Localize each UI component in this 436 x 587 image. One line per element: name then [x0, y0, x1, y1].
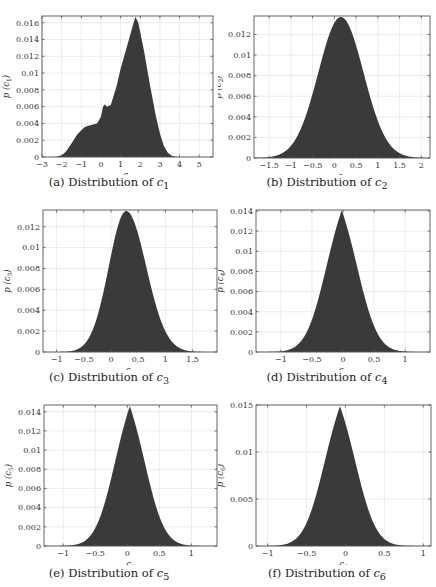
x-tick-label: 0.5: [350, 161, 363, 170]
y-tick-label: 0.014: [18, 408, 41, 417]
y-tick-label: 0.006: [228, 92, 251, 101]
x-tick-label: 1: [375, 161, 380, 170]
subplot-b: −1.5−1−0.500.511.5200.0020.0040.0060.008…: [218, 0, 436, 195]
x-tick-label: −1: [285, 161, 297, 170]
subplot-c: −1−0.500.511.500.0020.0040.0060.0080.010…: [0, 195, 218, 390]
chart-a: −3−2−101234500.0020.0040.0060.0080.010.0…: [0, 0, 218, 175]
y-tick-label: 0.004: [228, 113, 251, 122]
x-tick-label: 0: [98, 160, 103, 169]
x-tick-label: 1: [421, 549, 426, 558]
x-tick-label: −0.5: [86, 549, 105, 558]
y-axis-label: p (c4): [218, 269, 226, 292]
x-tick-label: 0.5: [368, 355, 381, 364]
x-tick-label: −0.5: [297, 549, 316, 558]
y-tick-label: 0.012: [17, 223, 40, 232]
x-tick-label: 3: [157, 160, 162, 169]
y-axis-label: p (c2): [218, 75, 224, 98]
y-tick-label: 0.004: [18, 503, 41, 512]
y-tick-label: 0.01: [235, 247, 253, 256]
y-tick-label: 0: [246, 154, 251, 163]
chart-b: −1.5−1−0.500.511.5200.0020.0040.0060.008…: [218, 0, 436, 175]
x-tick-label: 1: [163, 355, 168, 364]
x-tick-label: 1: [189, 549, 194, 558]
y-tick-label: 0: [248, 542, 253, 551]
y-tick-label: 0.002: [228, 133, 251, 142]
y-tick-label: 0.016: [16, 19, 39, 28]
x-tick-label: 4: [177, 160, 182, 169]
y-tick-label: 0.006: [18, 484, 41, 493]
x-tick-label: −0.5: [302, 355, 321, 364]
y-tick-label: 0.012: [18, 427, 41, 436]
y-tick-label: 0.006: [16, 102, 39, 111]
x-tick-label: −1.5: [259, 161, 278, 170]
caption-b: (b) Distribution of c2: [218, 175, 436, 191]
y-tick-label: 0.008: [228, 71, 251, 80]
caption-f: (f) Distribution of c6: [218, 566, 436, 582]
x-tick-label: −2: [56, 160, 68, 169]
x-tick-label: 0.5: [132, 355, 145, 364]
x-tick-label: 0: [340, 355, 345, 364]
x-tick-label: 1.5: [186, 355, 199, 364]
y-tick-label: 0: [34, 153, 39, 162]
y-axis-label: p (c3): [2, 269, 13, 292]
x-tick-label: 2: [138, 160, 143, 169]
y-tick-label: 0.014: [16, 35, 39, 44]
x-tick-label: −1: [51, 355, 63, 364]
caption-d: (d) Distribution of c4: [218, 370, 436, 386]
x-tick-label: −0.5: [303, 161, 322, 170]
x-tick-label: 1.5: [393, 161, 406, 170]
x-tick-label: −1: [262, 549, 274, 558]
y-tick-label: 0.01: [22, 243, 40, 252]
y-tick-label: 0.01: [21, 69, 39, 78]
y-tick-label: 0.015: [230, 401, 253, 410]
x-tick-label: 5: [197, 160, 202, 169]
x-tick-label: 0: [125, 549, 130, 558]
y-tick-label: 0.002: [230, 328, 253, 337]
y-tick-label: 0.004: [16, 119, 39, 128]
x-tick-label: −0.5: [74, 355, 93, 364]
x-tick-label: 1: [118, 160, 123, 169]
y-tick-label: 0: [35, 348, 40, 357]
x-axis-label: c5: [126, 559, 135, 565]
x-tick-label: 1: [403, 355, 408, 364]
distribution-area: [256, 406, 431, 546]
y-tick-label: 0.012: [16, 52, 39, 61]
x-tick-label: −1: [57, 549, 69, 558]
y-tick-label: 0: [248, 348, 253, 357]
subplot-a: −3−2−101234500.0020.0040.0060.0080.010.0…: [0, 0, 218, 195]
y-tick-label: 0.005: [230, 495, 253, 504]
y-axis-label: p (c5): [3, 464, 14, 487]
x-tick-label: 0: [343, 549, 348, 558]
y-tick-label: 0.01: [235, 448, 253, 457]
y-tick-label: 0.006: [230, 287, 253, 296]
y-axis-label: p (c1): [1, 75, 12, 98]
y-tick-label: 0.008: [230, 267, 253, 276]
y-tick-label: 0.014: [230, 207, 253, 216]
y-tick-label: 0.012: [228, 30, 251, 39]
y-tick-label: 0.002: [17, 327, 40, 336]
x-tick-label: −1: [75, 160, 87, 169]
x-axis-label: c6: [339, 559, 348, 565]
y-tick-label: 0.004: [230, 308, 253, 317]
caption-e: (e) Distribution of c5: [0, 566, 218, 582]
y-tick-label: 0.008: [18, 465, 41, 474]
y-tick-label: 0.01: [233, 51, 251, 60]
distribution-area: [42, 17, 213, 157]
chart-c: −1−0.500.511.500.0020.0040.0060.0080.010…: [0, 195, 218, 370]
y-tick-label: 0.006: [17, 285, 40, 294]
subplot-f: −1−0.500.5100.0050.010.015c6p (c6) (f) D…: [218, 390, 436, 587]
x-tick-label: 0.5: [378, 549, 391, 558]
subplot-d: −1−0.500.5100.0020.0040.0060.0080.010.01…: [218, 195, 436, 390]
y-tick-label: 0.002: [18, 523, 41, 532]
x-tick-label: 0.5: [153, 549, 166, 558]
chart-f: −1−0.500.5100.0050.010.015c6p (c6): [218, 390, 436, 565]
subplot-e: −1−0.500.5100.0020.0040.0060.0080.010.01…: [0, 390, 218, 587]
y-tick-label: 0.008: [16, 86, 39, 95]
y-tick-label: 0.012: [230, 227, 253, 236]
chart-e: −1−0.500.5100.0020.0040.0060.0080.010.01…: [0, 390, 218, 565]
y-tick-label: 0.008: [17, 264, 40, 273]
distribution-area: [256, 211, 430, 352]
y-tick-label: 0.01: [23, 446, 41, 455]
x-tick-label: 0: [332, 161, 337, 170]
chart-d: −1−0.500.5100.0020.0040.0060.0080.010.01…: [218, 195, 436, 370]
